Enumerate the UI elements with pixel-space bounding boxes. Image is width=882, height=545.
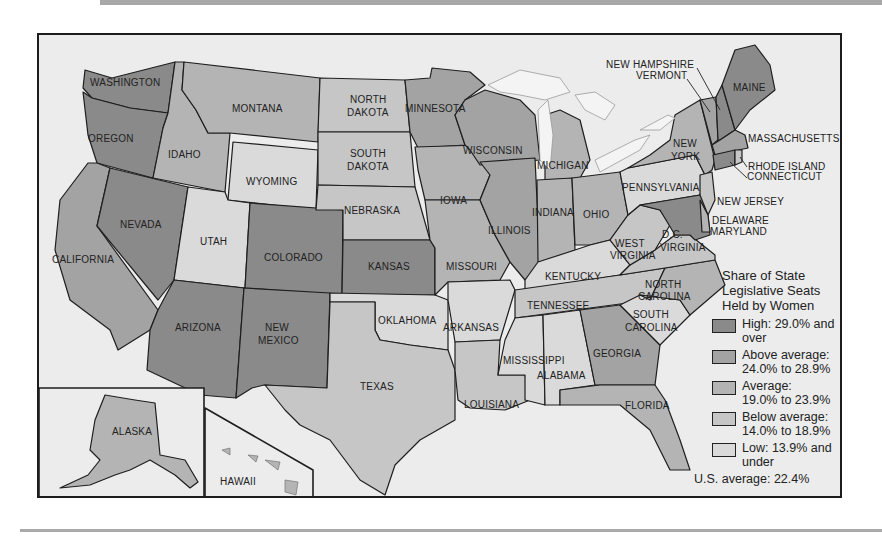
- label-north-carolina-1: NORTH: [645, 279, 681, 290]
- label-south-carolina-2: CAROLINA: [625, 322, 678, 333]
- label-south-dakota-1: SOUTH: [350, 148, 386, 159]
- label-california: CALIFORNIA: [52, 254, 114, 265]
- label-west-virginia-1: WEST: [615, 238, 645, 249]
- label-michigan: MICHIGAN: [537, 160, 589, 171]
- us-average: U.S. average: 22.4%: [694, 472, 872, 486]
- state-arizona: [147, 280, 244, 398]
- legend-label: Low: 13.9% and: [742, 441, 832, 455]
- label-new-mexico-1: NEW: [265, 322, 289, 333]
- label-delaware: DELAWARE: [712, 215, 769, 226]
- legend-item-high: High: 29.0% andover: [712, 317, 872, 345]
- legend-item-above-average: Above average:24.0% to 28.9%: [712, 348, 872, 376]
- label-washington: WASHINGTON: [90, 77, 160, 88]
- legend-label: Average:: [742, 379, 830, 393]
- label-new-jersey: NEW JERSEY: [717, 196, 784, 207]
- label-mississippi: MISSISSIPPI: [503, 355, 565, 366]
- legend-label: 24.0% to 28.9%: [742, 362, 830, 376]
- legend-label: over: [742, 331, 834, 345]
- label-south-dakota-2: DAKOTA: [347, 161, 389, 172]
- label-dc: D.C.: [662, 229, 683, 240]
- label-iowa: IOWA: [440, 195, 467, 206]
- legend-label: under: [742, 455, 832, 469]
- label-minnesota: MINNESOTA: [405, 103, 466, 114]
- label-vermont: VERMONT: [636, 70, 687, 81]
- label-massachusetts: MASSACHUSETTS: [748, 133, 840, 144]
- label-montana: MONTANA: [232, 103, 283, 114]
- label-nebraska: NEBRASKA: [344, 205, 400, 216]
- label-idaho: IDAHO: [168, 149, 201, 160]
- label-georgia: GEORGIA: [593, 348, 641, 359]
- label-west-virginia-2: VIRGINIA: [610, 250, 656, 261]
- label-wyoming: WYOMING: [246, 176, 297, 187]
- label-arkansas: ARKANSAS: [443, 322, 499, 333]
- label-alaska: ALASKA: [112, 426, 152, 437]
- label-wisconsin: WISCONSIN: [463, 145, 523, 156]
- label-arizona: ARIZONA: [175, 322, 221, 333]
- legend-label: 14.0% to 18.9%: [742, 424, 830, 438]
- legend-swatch: [712, 412, 736, 426]
- legend-label: Above average:: [742, 348, 830, 362]
- legend-swatch: [712, 381, 736, 395]
- label-nevada: NEVADA: [120, 219, 162, 230]
- label-indiana: INDIANA: [532, 207, 574, 218]
- legend-title: Share of State Legislative Seats Held by…: [722, 268, 872, 313]
- label-kansas: KANSAS: [368, 261, 410, 272]
- label-utah: UTAH: [200, 236, 227, 247]
- state-indiana: [537, 178, 575, 262]
- state-south-dakota: [318, 132, 415, 187]
- legend-item-average: Average:19.0% to 23.9%: [712, 379, 872, 407]
- legend: Share of State Legislative Seats Held by…: [712, 268, 872, 486]
- label-oklahoma: OKLAHOMA: [378, 315, 436, 326]
- legend-label: 19.0% to 23.9%: [742, 393, 830, 407]
- label-south-carolina-1: SOUTH: [633, 309, 669, 320]
- legend-swatch: [712, 319, 736, 333]
- label-north-carolina-2: CAROLINA: [638, 291, 691, 302]
- legend-label: Below average:: [742, 410, 830, 424]
- legend-swatch: [712, 350, 736, 364]
- legend-label: High: 29.0% and: [742, 317, 834, 331]
- label-texas: TEXAS: [360, 381, 394, 392]
- legend-swatch: [712, 443, 736, 457]
- label-ohio: OHIO: [583, 209, 609, 220]
- label-new-york-2: YORK: [671, 151, 700, 162]
- label-connecticut: CONNECTICUT: [747, 171, 822, 182]
- label-tennessee: TENNESSEE: [527, 300, 590, 311]
- label-north-dakota-2: DAKOTA: [347, 107, 389, 118]
- legend-title-line: Held by Women: [722, 298, 872, 313]
- label-pennsylvania: PENNSYLVANIA: [622, 182, 700, 193]
- label-alabama: ALABAMA: [537, 370, 586, 381]
- label-hawaii: HAWAII: [220, 476, 256, 487]
- legend-item-low: Low: 13.9% andunder: [712, 441, 872, 469]
- state-florida: [560, 385, 690, 470]
- label-rhode-island: RHODE ISLAND: [748, 161, 825, 172]
- label-maine: MAINE: [733, 82, 766, 93]
- state-north-dakota: [318, 78, 410, 132]
- label-illinois: ILLINOIS: [488, 225, 531, 236]
- label-missouri: MISSOURI: [446, 261, 497, 272]
- label-kentucky: KENTUCKY: [545, 271, 601, 282]
- legend-title-line: Share of State: [722, 268, 872, 283]
- label-new-mexico-2: MEXICO: [258, 335, 299, 346]
- label-maryland: MARYLAND: [710, 226, 767, 237]
- label-oregon: OREGON: [88, 133, 134, 144]
- state-colorado: [245, 203, 343, 295]
- label-new-york-1: NEW: [673, 138, 697, 149]
- label-louisiana: LOUISIANA: [464, 399, 519, 410]
- bottom-rule: [20, 529, 882, 532]
- label-north-dakota-1: NORTH: [350, 94, 386, 105]
- state-rhode-island: [735, 150, 742, 165]
- label-new-hampshire: NEW HAMPSHIRE: [606, 59, 694, 70]
- legend-title-line: Legislative Seats: [722, 283, 872, 298]
- label-florida: FLORIDA: [625, 400, 670, 411]
- label-colorado: COLORADO: [264, 252, 323, 263]
- label-virginia: VIRGINIA: [660, 242, 706, 253]
- legend-item-below-average: Below average:14.0% to 18.9%: [712, 410, 872, 438]
